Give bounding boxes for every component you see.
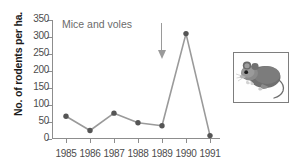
data-point [111, 110, 116, 115]
chart-figure: No. of rodents per ha. Mice and voles 05… [0, 0, 307, 167]
x-tick-mark [210, 139, 211, 143]
x-tick-label: 1987 [103, 148, 124, 159]
x-tick-label: 1986 [79, 148, 100, 159]
x-tick-label: 1988 [127, 148, 148, 159]
series-markers [63, 31, 212, 138]
data-point [87, 128, 92, 133]
x-tick-label: 1985 [55, 148, 76, 159]
data-point [183, 31, 188, 36]
y-tick-label: 50 [15, 115, 49, 126]
mouse-illustration-frame [233, 52, 289, 103]
y-tick-label: 350 [15, 13, 49, 24]
plot-area: Mice and voles 050100150200250300350 198… [52, 20, 220, 139]
y-tick-label: 100 [15, 98, 49, 109]
arrow-head [158, 50, 166, 59]
data-point [159, 123, 164, 128]
mouse-icon [234, 53, 288, 102]
x-tick-label: 1990 [175, 148, 196, 159]
y-tick-label: 0 [15, 132, 49, 143]
y-tick-label: 150 [15, 81, 49, 92]
y-tick-label: 200 [15, 64, 49, 75]
data-point [63, 114, 68, 119]
x-tick-label: 1991 [199, 148, 220, 159]
x-tick-label: 1989 [151, 148, 172, 159]
x-tick-mark [66, 139, 67, 143]
y-tick-label: 250 [15, 47, 49, 58]
x-tick-mark [114, 139, 115, 143]
data-point [135, 120, 140, 125]
x-tick-mark [138, 139, 139, 143]
arrow-shaft [161, 23, 162, 52]
data-point [207, 133, 212, 138]
annotation-arrow-icon [157, 23, 167, 59]
x-tick-mark [186, 139, 187, 143]
x-tick-mark [162, 139, 163, 143]
data-series [52, 20, 220, 139]
x-tick-mark [90, 139, 91, 143]
y-tick-label: 300 [15, 30, 49, 41]
